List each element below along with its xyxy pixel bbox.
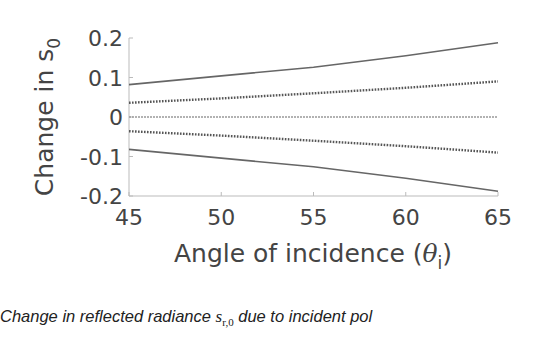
series-line-lower-solid	[129, 149, 498, 191]
y-tick-label: 0.2	[88, 26, 123, 51]
caption-suffix: due to incident pol	[234, 307, 373, 325]
x-tick-labels: 4550556065	[115, 205, 512, 230]
x-axis-label: Angle of incidence (θi)	[174, 239, 452, 273]
x-tick-label: 55	[300, 205, 328, 230]
series-line-lower-dotted	[129, 131, 498, 152]
y-tick-label: 0	[109, 105, 123, 130]
y-tick-label: -0.1	[80, 145, 123, 170]
x-tick-label: 45	[115, 205, 143, 230]
series-line-upper-dotted	[129, 81, 498, 102]
figure: Change in s0 0.20.10-0.1-0.2 4550556065 …	[0, 0, 539, 338]
caption-math: sr,0	[216, 307, 234, 326]
y-tick-label: 0.1	[88, 66, 123, 91]
series-line-upper-solid	[129, 43, 498, 85]
caption-prefix: Change in reflected radiance	[0, 307, 216, 325]
x-tick-label: 50	[207, 205, 235, 230]
x-tick-label: 65	[484, 205, 512, 230]
figure-caption: Change in reflected radiance sr,0 due to…	[0, 307, 539, 328]
y-tick-labels: 0.20.10-0.1-0.2	[80, 26, 123, 209]
y-axis-label: Change in s0	[30, 38, 64, 196]
data-series	[129, 43, 498, 192]
x-tick-label: 60	[392, 205, 420, 230]
